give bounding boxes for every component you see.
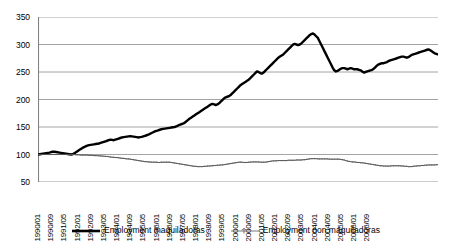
series-marker xyxy=(329,159,330,160)
series-marker xyxy=(436,164,437,165)
series-marker xyxy=(428,164,429,165)
series-marker xyxy=(240,162,241,163)
series-marker xyxy=(219,165,220,166)
series-marker xyxy=(69,154,70,155)
series-marker xyxy=(242,162,243,163)
series-marker xyxy=(370,164,371,165)
series-marker xyxy=(393,165,394,166)
series-marker xyxy=(368,163,369,164)
y-tick-label: 250 xyxy=(16,68,30,77)
series-marker xyxy=(363,162,364,163)
series-marker xyxy=(179,163,180,164)
series-marker xyxy=(302,159,303,160)
series-marker xyxy=(177,163,178,164)
series-marker xyxy=(288,160,289,161)
series-marker xyxy=(39,154,40,155)
series-marker xyxy=(118,157,119,158)
series-marker xyxy=(276,160,277,161)
series-marker xyxy=(273,160,274,161)
series-marker xyxy=(299,159,300,160)
series-marker xyxy=(184,164,185,165)
series-marker xyxy=(189,165,190,166)
series-marker xyxy=(378,165,379,166)
series-marker xyxy=(51,154,52,155)
series-marker xyxy=(405,166,406,167)
series-marker xyxy=(181,164,182,165)
series-marker xyxy=(289,160,290,161)
series-marker xyxy=(143,161,144,162)
series-marker xyxy=(386,166,387,167)
series-marker xyxy=(423,165,424,166)
series-marker xyxy=(154,162,155,163)
series-marker xyxy=(247,162,248,163)
y-tick-label: 200 xyxy=(16,95,30,104)
series-marker xyxy=(82,155,83,156)
series-marker xyxy=(123,158,124,159)
y-tick-label: 50 xyxy=(21,178,30,187)
series-marker xyxy=(373,164,374,165)
series-marker xyxy=(116,157,117,158)
series-marker xyxy=(90,155,91,156)
series-marker xyxy=(171,162,172,163)
series-marker xyxy=(327,158,328,159)
y-tick-label: 150 xyxy=(16,123,30,132)
series-marker xyxy=(319,158,320,159)
series-marker xyxy=(296,159,297,160)
chart-legend: Employment maquiladoras Employment non m… xyxy=(0,226,452,235)
series-marker xyxy=(95,155,96,156)
series-marker xyxy=(100,155,101,156)
series-marker xyxy=(136,160,137,161)
series-marker xyxy=(279,160,280,161)
series-marker xyxy=(214,165,215,166)
series-marker xyxy=(77,154,78,155)
series-marker xyxy=(314,158,315,159)
series-marker xyxy=(266,161,267,162)
y-tick-label: 100 xyxy=(16,150,30,159)
series-marker xyxy=(352,161,353,162)
series-marker xyxy=(316,158,317,159)
series-marker xyxy=(80,155,81,156)
series-marker xyxy=(270,161,271,162)
series-marker xyxy=(41,154,42,155)
series-marker xyxy=(87,155,88,156)
series-marker xyxy=(209,166,210,167)
series-marker xyxy=(332,159,333,160)
series-marker xyxy=(306,159,307,160)
series-marker xyxy=(345,160,346,161)
series-marker xyxy=(416,166,417,167)
series-marker xyxy=(255,161,256,162)
series-marker xyxy=(102,156,103,157)
series-marker xyxy=(108,156,109,157)
series-marker xyxy=(271,161,272,162)
series-marker xyxy=(413,166,414,167)
series-marker xyxy=(372,164,373,165)
series-marker xyxy=(141,161,142,162)
series-marker xyxy=(197,166,198,167)
series-marker xyxy=(174,162,175,163)
series-marker xyxy=(65,154,66,155)
series-marker xyxy=(93,155,94,156)
series-marker xyxy=(377,165,378,166)
series-marker xyxy=(330,159,331,160)
series-marker xyxy=(298,159,299,160)
series-marker xyxy=(355,162,356,163)
series-marker xyxy=(57,154,58,155)
series-marker xyxy=(381,165,382,166)
series-marker xyxy=(67,154,68,155)
series-line-1 xyxy=(38,155,438,167)
series-marker xyxy=(261,162,262,163)
series-marker xyxy=(126,158,127,159)
series-marker xyxy=(388,166,389,167)
series-marker xyxy=(357,162,358,163)
series-marker xyxy=(227,164,228,165)
series-marker xyxy=(107,156,108,157)
series-marker xyxy=(187,165,188,166)
legend-entry-maquiladoras: Employment maquiladoras xyxy=(72,226,205,235)
series-line-0 xyxy=(38,34,438,155)
series-marker xyxy=(112,157,113,158)
series-marker xyxy=(278,160,279,161)
series-marker xyxy=(97,155,98,156)
series-marker xyxy=(42,154,43,155)
series-marker xyxy=(220,164,221,165)
series-marker xyxy=(429,164,430,165)
